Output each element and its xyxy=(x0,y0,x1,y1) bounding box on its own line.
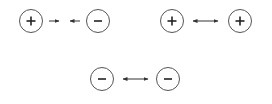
positive-charge-circle xyxy=(229,10,252,33)
charge-interaction-diagram xyxy=(0,0,272,104)
pair-positive-repel xyxy=(161,10,252,33)
pair-attract xyxy=(20,10,110,33)
negative-charge-circle xyxy=(87,10,110,33)
negative-charge-circle xyxy=(157,68,180,91)
positive-charge-circle xyxy=(20,10,43,33)
positive-charge-circle xyxy=(161,10,184,33)
negative-charge-circle xyxy=(91,68,114,91)
pair-negative-repel xyxy=(91,68,180,91)
